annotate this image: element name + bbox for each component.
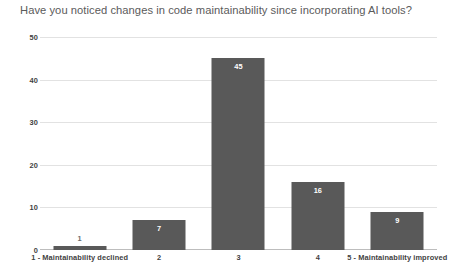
bar-category-1[interactable]: 1 (53, 246, 106, 250)
bar-category-5[interactable]: 9 (371, 212, 424, 250)
bar-slot-5: 9 (358, 37, 437, 250)
x-tick-label-2: 2 (157, 253, 161, 262)
bar-slot-4: 16 (278, 37, 357, 250)
bar-value-3: 45 (234, 62, 242, 71)
x-tick-label-4: 4 (316, 253, 320, 262)
y-tick-label-10: 10 (4, 203, 38, 212)
y-tick-label-50: 50 (4, 33, 38, 42)
bar-value-1: 1 (78, 234, 82, 243)
bar-category-4[interactable]: 16 (291, 182, 344, 250)
x-axis: 1 - Maintainability declined 2 3 4 5 - M… (40, 253, 437, 269)
y-tick-label-20: 20 (4, 160, 38, 169)
bars-layer: 1 7 45 16 9 (40, 37, 437, 250)
y-tick-label-30: 30 (4, 118, 38, 127)
bar-value-2: 7 (157, 224, 161, 233)
bar-category-2[interactable]: 7 (133, 220, 186, 250)
bar-slot-2: 7 (119, 37, 198, 250)
bar-value-5: 9 (395, 216, 399, 225)
x-tick-label-1: 1 - Maintainability declined (31, 253, 128, 262)
x-tick-label-3: 3 (236, 253, 240, 262)
x-tick-label-5: 5 - Maintainability improved (347, 253, 447, 262)
y-axis: 50 40 30 20 10 0 (0, 37, 38, 250)
bar-slot-3: 45 (199, 37, 278, 250)
y-tick-label-40: 40 (4, 75, 38, 84)
bar-value-4: 16 (314, 186, 322, 195)
chart-title: Have you noticed changes in code maintai… (20, 3, 450, 17)
bar-chart: Have you noticed changes in code maintai… (0, 0, 459, 280)
bar-category-3[interactable]: 45 (212, 58, 265, 250)
bar-slot-1: 1 (40, 37, 119, 250)
